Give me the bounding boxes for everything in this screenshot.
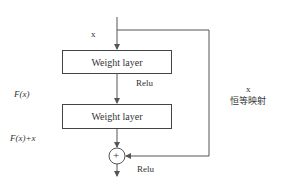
connection-lines [0,0,282,186]
residual-function-label: F(x) [14,90,30,99]
relu-label-1: Relu [136,79,153,88]
relu-label-2: Relu [137,165,154,174]
weight-layer-2: Weight layer [62,104,172,129]
shortcut-label: x [246,85,251,94]
sum-label: F(x)+x [10,134,36,143]
identity-mapping-caption: 恒等映射 [230,97,266,106]
weight-layer-1: Weight layer [62,50,172,74]
input-label: x [91,30,96,39]
plus-icon: + [113,150,119,161]
